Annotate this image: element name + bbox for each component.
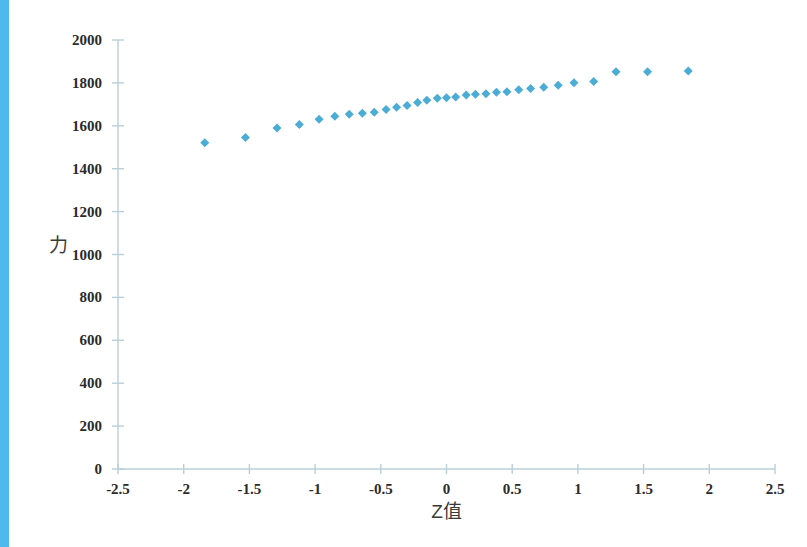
x-tick-label: 2: [706, 481, 714, 497]
data-series-force: [200, 67, 693, 148]
data-point-marker: [471, 90, 480, 99]
y-tick-label: 1000: [72, 247, 102, 263]
x-tick-label: 1.5: [634, 481, 653, 497]
data-point-marker: [492, 88, 501, 97]
data-point-marker: [643, 67, 652, 76]
y-tick-label: 0: [95, 461, 103, 477]
y-tick-label: 1600: [72, 118, 102, 134]
x-axis-title: Z值: [431, 501, 462, 522]
data-point-marker: [200, 138, 209, 147]
data-point-marker: [345, 110, 354, 119]
data-point-marker: [295, 120, 304, 129]
y-tick-label: 400: [80, 375, 103, 391]
y-axis-title: 力: [49, 235, 68, 256]
data-point-marker: [481, 89, 490, 98]
x-tick-label: -1: [309, 481, 322, 497]
data-point-marker: [358, 109, 367, 118]
data-point-marker: [589, 77, 598, 86]
y-tick-label: 800: [80, 289, 103, 305]
data-point-marker: [451, 93, 460, 102]
data-point-marker: [330, 112, 339, 121]
data-point-marker: [241, 133, 250, 142]
data-point-marker: [382, 105, 391, 114]
x-tick-label: 0.5: [503, 481, 522, 497]
y-tick-label: 2000: [72, 32, 102, 48]
y-tick-label: 1200: [72, 204, 102, 220]
data-point-marker: [684, 67, 693, 76]
y-tick-label: 1800: [72, 75, 102, 91]
x-tick-label: 1: [574, 481, 582, 497]
data-point-marker: [539, 83, 548, 92]
data-point-marker: [569, 78, 578, 87]
x-tick-label: -2: [177, 481, 190, 497]
scatter-chart: 0200400600800100012001400160018002000-2.…: [0, 0, 807, 547]
data-point-marker: [315, 115, 324, 124]
y-tick-label: 1400: [72, 161, 102, 177]
data-point-marker: [526, 84, 535, 93]
y-tick-label: 600: [80, 332, 103, 348]
x-tick-label: -0.5: [369, 481, 393, 497]
data-point-marker: [403, 101, 412, 110]
x-tick-label: -2.5: [106, 481, 130, 497]
data-point-marker: [422, 96, 431, 105]
data-point-marker: [442, 93, 451, 102]
x-tick-label: -1.5: [238, 481, 262, 497]
data-point-marker: [433, 94, 442, 103]
data-point-marker: [272, 123, 281, 132]
data-point-marker: [514, 85, 523, 94]
data-point-marker: [413, 98, 422, 107]
data-point-marker: [392, 103, 401, 112]
data-point-marker: [502, 87, 511, 96]
x-tick-label: 0: [443, 481, 451, 497]
data-point-marker: [462, 90, 471, 99]
x-tick-label: 2.5: [766, 481, 785, 497]
y-tick-label: 200: [80, 418, 103, 434]
chart-canvas: 0200400600800100012001400160018002000-2.…: [0, 0, 807, 547]
data-point-marker: [612, 67, 621, 76]
data-point-marker: [370, 108, 379, 117]
data-point-marker: [554, 81, 563, 90]
